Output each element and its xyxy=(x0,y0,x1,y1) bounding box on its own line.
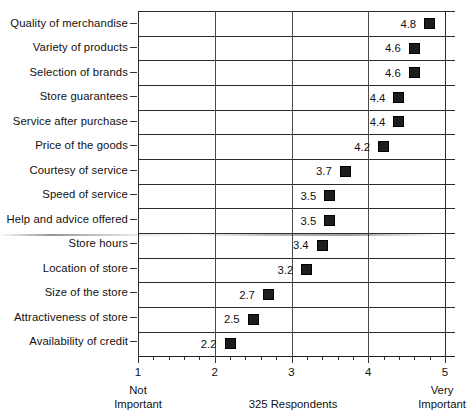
scan-artifact xyxy=(0,234,438,236)
x-tick-minor xyxy=(276,357,277,360)
x-tick-label: 1 xyxy=(118,366,158,379)
data-value-label: 3.4 xyxy=(249,239,309,251)
data-point-marker xyxy=(301,264,312,275)
x-tick-label: 5 xyxy=(425,366,465,379)
data-point-marker xyxy=(324,190,335,201)
x-tick-minor xyxy=(199,357,200,360)
data-value-label: 4.6 xyxy=(341,42,401,54)
data-value-label: 2.2 xyxy=(157,338,217,350)
y-tick-mark xyxy=(130,72,137,73)
grid-line-horizontal xyxy=(138,134,455,135)
data-value-label: 3.7 xyxy=(272,165,332,177)
x-tick-minor xyxy=(184,357,185,360)
x-tick-minor xyxy=(338,357,339,360)
category-label: Price of the goods xyxy=(0,139,128,151)
x-tick-minor xyxy=(153,357,154,360)
data-point-marker xyxy=(225,338,236,349)
x-tick-minor xyxy=(399,357,400,360)
category-label: Location of store xyxy=(0,262,128,274)
grid-line-vertical xyxy=(215,11,216,357)
x-tick-minor xyxy=(230,357,231,360)
category-label: Service after purchase xyxy=(0,115,128,127)
y-tick-mark xyxy=(130,121,137,122)
data-value-label: 4.6 xyxy=(341,67,401,79)
category-label: Attractiveness of store xyxy=(0,311,128,323)
y-tick-mark xyxy=(130,219,137,220)
category-label: Speed of service xyxy=(0,188,128,200)
y-tick-mark xyxy=(130,317,137,318)
x-tick-label: 4 xyxy=(348,366,388,379)
y-tick-mark xyxy=(130,341,137,342)
data-value-label: 2.7 xyxy=(195,289,255,301)
data-point-marker xyxy=(424,18,435,29)
grid-line-horizontal xyxy=(138,60,455,61)
plot-right-edge xyxy=(445,11,446,357)
x-tick-major xyxy=(292,357,293,363)
grid-line-vertical xyxy=(368,11,369,357)
y-tick-mark xyxy=(130,47,137,48)
grid-line-horizontal xyxy=(138,233,455,234)
grid-line-horizontal xyxy=(138,36,455,37)
x-tick-minor xyxy=(430,357,431,360)
data-value-label: 4.4 xyxy=(325,92,385,104)
y-tick-mark xyxy=(130,145,137,146)
data-value-label: 4.8 xyxy=(356,18,416,30)
data-point-marker xyxy=(248,314,259,325)
data-value-label: 2.5 xyxy=(180,313,240,325)
data-value-label: 3.5 xyxy=(256,215,316,227)
x-tick-minor xyxy=(414,357,415,360)
y-tick-mark xyxy=(130,268,137,269)
y-tick-mark xyxy=(130,292,137,293)
category-label: Size of the store xyxy=(0,286,128,298)
grid-line-horizontal xyxy=(138,258,455,259)
grid-line-horizontal xyxy=(138,184,455,185)
axis-high-anchor-label: Very Important xyxy=(410,384,471,411)
x-tick-major xyxy=(445,357,446,363)
x-tick-minor xyxy=(245,357,246,360)
data-value-label: 4.4 xyxy=(325,116,385,128)
category-label: Availability of credit xyxy=(0,335,128,347)
data-point-marker xyxy=(340,166,351,177)
category-label: Selection of brands xyxy=(0,66,128,78)
x-tick-major xyxy=(215,357,216,363)
category-label: Quality of merchandise xyxy=(0,17,128,29)
y-axis-line xyxy=(138,11,139,357)
grid-line-vertical xyxy=(292,11,293,357)
grid-line-horizontal xyxy=(138,208,455,209)
grid-line-horizontal xyxy=(138,332,455,333)
grid-line-horizontal xyxy=(138,85,455,86)
grid-line-horizontal xyxy=(138,159,455,160)
data-point-marker xyxy=(263,289,274,300)
axis-low-anchor-label: Not Important xyxy=(106,384,170,411)
y-tick-mark xyxy=(130,194,137,195)
x-tick-minor xyxy=(322,357,323,360)
grid-line-horizontal xyxy=(138,110,455,111)
data-value-label: 3.5 xyxy=(256,190,316,202)
category-label: Courtesy of service xyxy=(0,164,128,176)
x-tick-label: 3 xyxy=(272,366,312,379)
x-tick-minor xyxy=(261,357,262,360)
x-tick-minor xyxy=(353,357,354,360)
y-tick-mark xyxy=(130,170,137,171)
y-tick-mark xyxy=(130,23,137,24)
data-point-marker xyxy=(324,215,335,226)
data-value-label: 4.2 xyxy=(310,141,370,153)
x-tick-major xyxy=(368,357,369,363)
category-label: Help and advice offered xyxy=(0,213,128,225)
y-tick-mark xyxy=(130,243,137,244)
data-point-marker xyxy=(409,67,420,78)
y-tick-mark xyxy=(130,96,137,97)
x-tick-major xyxy=(138,357,139,363)
category-label: Store guarantees xyxy=(0,90,128,102)
grid-line-horizontal xyxy=(138,307,455,308)
x-tick-minor xyxy=(307,357,308,360)
data-point-marker xyxy=(393,116,404,127)
grid-line-horizontal xyxy=(138,282,455,283)
category-label: Store hours xyxy=(0,237,128,249)
grid-line-horizontal xyxy=(138,11,455,12)
x-axis-title: 325 Respondents xyxy=(213,398,373,412)
data-point-marker xyxy=(317,240,328,251)
plot-area: 4.8 4.6 4.6 4.4 4.4 4.2 3.7 3.5 3.5 3.4 … xyxy=(138,11,455,357)
x-tick-label: 2 xyxy=(195,366,235,379)
importance-rating-chart: Quality of merchandise Variety of produc… xyxy=(0,0,471,418)
